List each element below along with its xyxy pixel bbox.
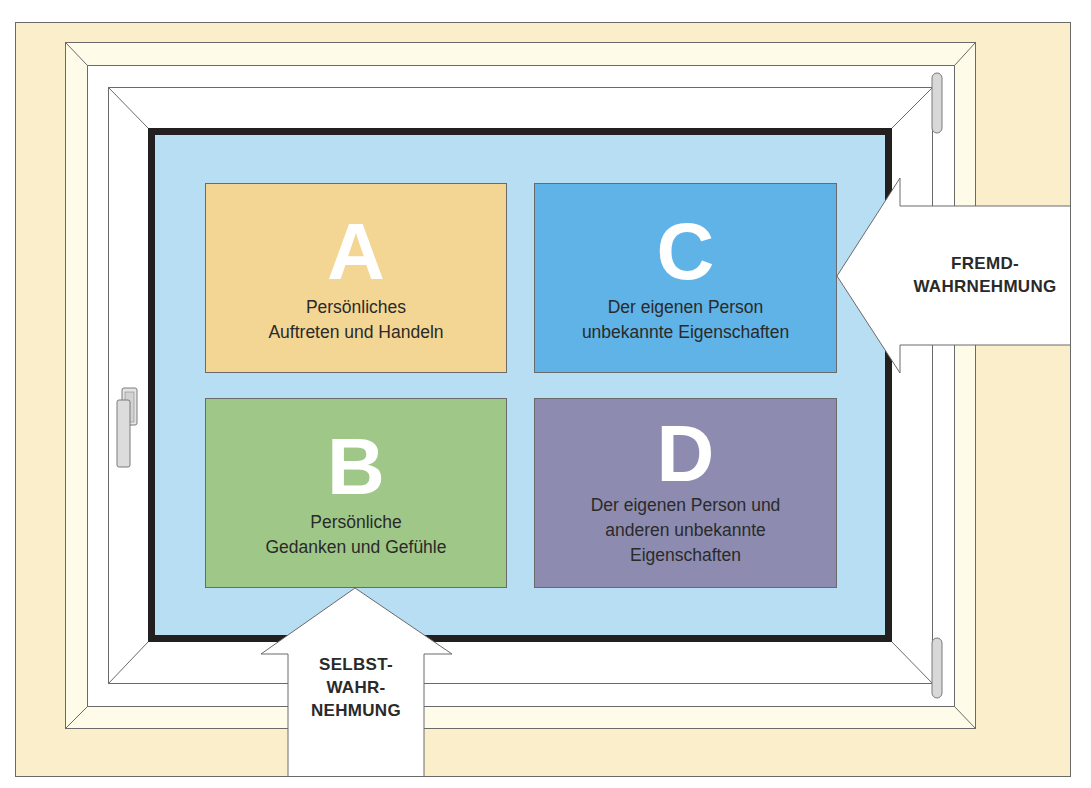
hinge-icon-bottom xyxy=(932,638,942,698)
window-frame-drawing xyxy=(0,0,1091,788)
pane-c: C Der eigenen Person unbekannte Eigensch… xyxy=(534,183,837,373)
pane-c-letter: C xyxy=(657,217,715,287)
pane-c-description: Der eigenen Person unbekannte Eigenschaf… xyxy=(582,295,789,345)
pane-a-letter: A xyxy=(327,217,385,287)
selbstwahrnehmung-label: SELBST- WAHR- NEHMUNG xyxy=(288,653,424,722)
pane-d-description: Der eigenen Person und anderen unbekannt… xyxy=(591,493,781,568)
pane-a: A Persönliches Auftreten und Handeln xyxy=(205,183,507,373)
pane-b-description: Persönliche Gedanken und Gefühle xyxy=(266,510,447,560)
pane-a-description: Persönliches Auftreten und Handeln xyxy=(268,295,443,345)
pane-d-letter: D xyxy=(657,419,715,489)
hinge-icon-top xyxy=(932,73,942,133)
pane-b-letter: B xyxy=(327,432,385,502)
fremdwahrnehmung-label: FREMD- WAHRNEHMUNG xyxy=(900,252,1070,298)
pane-d: D Der eigenen Person und anderen unbekan… xyxy=(534,398,837,588)
pane-b: B Persönliche Gedanken und Gefühle xyxy=(205,398,507,588)
